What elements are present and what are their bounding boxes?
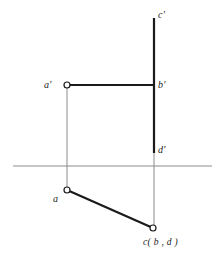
projection-figure-canvas: c' a' b' d' a c( b , d ) bbox=[0, 0, 223, 257]
projection-drawing bbox=[0, 0, 223, 257]
label-b-prime: b' bbox=[158, 80, 166, 90]
label-c-prime: c' bbox=[158, 10, 165, 20]
label-a-prime: a' bbox=[44, 80, 52, 90]
line-segment-ac bbox=[67, 190, 153, 228]
point-marker-a bbox=[64, 187, 70, 193]
label-a: a bbox=[53, 194, 58, 204]
point-marker-a-prime bbox=[64, 82, 70, 88]
label-d-prime: d' bbox=[158, 145, 166, 155]
point-marker-c bbox=[150, 225, 156, 231]
label-c-b-d: c( b , d ) bbox=[143, 238, 178, 248]
